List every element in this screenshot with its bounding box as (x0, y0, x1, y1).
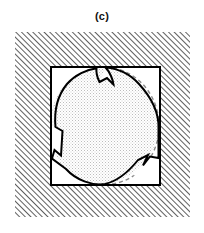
figure-panel: (c) (0, 0, 204, 233)
figure-canvas (0, 0, 204, 233)
